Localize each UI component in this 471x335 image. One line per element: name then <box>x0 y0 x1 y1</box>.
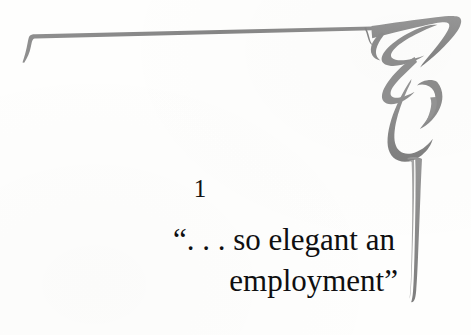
chapter-heading-block: 1 “. . . so elegant an employment” <box>0 0 471 335</box>
chapter-title-line-1: “. . . so elegant an <box>40 219 400 260</box>
chapter-title-line-2: employment” <box>40 260 400 301</box>
chapter-opening-page: 1 “. . . so elegant an employment” <box>0 0 471 335</box>
chapter-number: 1 <box>0 176 400 201</box>
chapter-title: “. . . so elegant an employment” <box>40 219 400 301</box>
